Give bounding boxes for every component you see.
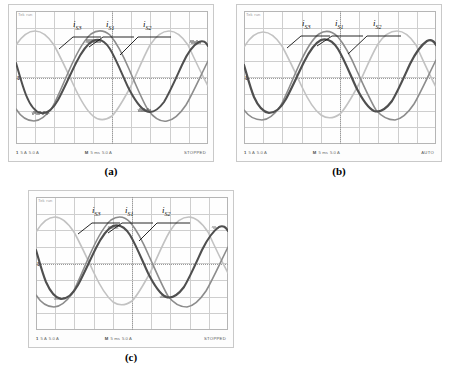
- trace-is2-b: [244, 31, 436, 118]
- panel-caption-c: (c): [28, 351, 234, 363]
- scope-screen-a: Tek run: [16, 11, 208, 144]
- status-vertical-extra-c: 5.0 A: [49, 336, 59, 341]
- status-channel-indicator-b: 1: [244, 150, 246, 155]
- waveform-traces-a: [16, 11, 208, 144]
- scope-screen-c: Tek run: [36, 197, 228, 330]
- scope-frame-c: Tek run: [28, 190, 234, 348]
- oscilloscope-panel-c: Tek run: [28, 190, 234, 363]
- trace-is3-a: [16, 40, 208, 113]
- channel-1-marker-a: 1: [17, 75, 20, 81]
- status-timebase-value-a: 5 ms: [90, 150, 99, 155]
- channel-1-marker-c: 1: [37, 261, 40, 267]
- status-timebase-value-c: 5 ms: [110, 336, 119, 341]
- status-acquisition-state-a: STOPPED: [184, 150, 206, 155]
- status-vertical-scale-a: 5 A: [20, 150, 26, 155]
- trace-is3-c: [36, 225, 228, 299]
- scope-screen-b: Tek run iS3: [244, 11, 436, 144]
- trace-is1-a: [16, 31, 208, 121]
- status-timebase-value-b: 5 ms: [318, 150, 327, 155]
- panel-caption-b: (b): [236, 165, 442, 177]
- scope-statusbar-a: 1 5 A 5.0 A M 5 ms 5.0 A STOPPED: [16, 147, 206, 157]
- status-vertical-scale-b: 5 A: [248, 150, 254, 155]
- status-channel-indicator-a: 1: [16, 150, 18, 155]
- oscilloscope-panel-b: Tek run iS3: [236, 4, 442, 177]
- scope-frame-a: Tek run: [8, 4, 214, 162]
- trace-is3-b: [244, 39, 436, 113]
- scope-statusbar-b: 1 5 A 5.0 A M 5 ms 5.0 A AUTO: [244, 147, 434, 157]
- trace-is2-c: [36, 217, 228, 305]
- trace-is1-c: [36, 217, 228, 307]
- status-channel-indicator-c: 1: [36, 336, 38, 341]
- status-timebase-c: M 5 ms 5.0 A: [105, 336, 132, 341]
- waveform-traces-b: [244, 11, 436, 144]
- status-vertical-c: 1 5 A 5.0 A: [36, 336, 59, 341]
- trace-is1-b: [244, 32, 436, 120]
- status-vertical-scale-c: 5 A: [40, 336, 46, 341]
- oscilloscope-panel-a: Tek run: [8, 4, 214, 177]
- panel-caption-a: (a): [8, 165, 214, 177]
- status-timebase-symbol-a: M: [85, 150, 89, 155]
- status-timebase-symbol-c: M: [105, 336, 109, 341]
- channel-1-marker-b: 1: [245, 75, 248, 81]
- status-trigger-level-a: 5.0 A: [102, 150, 112, 155]
- status-trigger-level-b: 5.0 A: [330, 150, 340, 155]
- status-timebase-symbol-b: M: [313, 150, 317, 155]
- status-vertical-extra-a: 5.0 A: [29, 150, 39, 155]
- scope-statusbar-c: 1 5 A 5.0 A M 5 ms 5.0 A STOPPED: [36, 333, 226, 343]
- status-vertical-extra-b: 5.0 A: [257, 150, 267, 155]
- status-acquisition-state-b: AUTO: [421, 150, 434, 155]
- waveform-traces-c: [36, 197, 228, 330]
- status-vertical-a: 1 5 A 5.0 A: [16, 150, 39, 155]
- status-timebase-b: M 5 ms 5.0 A: [313, 150, 340, 155]
- ripple-overlay-c: [54, 226, 219, 300]
- scope-frame-b: Tek run iS3: [236, 4, 442, 162]
- status-timebase-a: M 5 ms 5.0 A: [85, 150, 112, 155]
- status-vertical-b: 1 5 A 5.0 A: [244, 150, 267, 155]
- status-trigger-level-c: 5.0 A: [122, 336, 132, 341]
- trace-is2-a: [16, 31, 208, 120]
- status-acquisition-state-c: STOPPED: [204, 336, 226, 341]
